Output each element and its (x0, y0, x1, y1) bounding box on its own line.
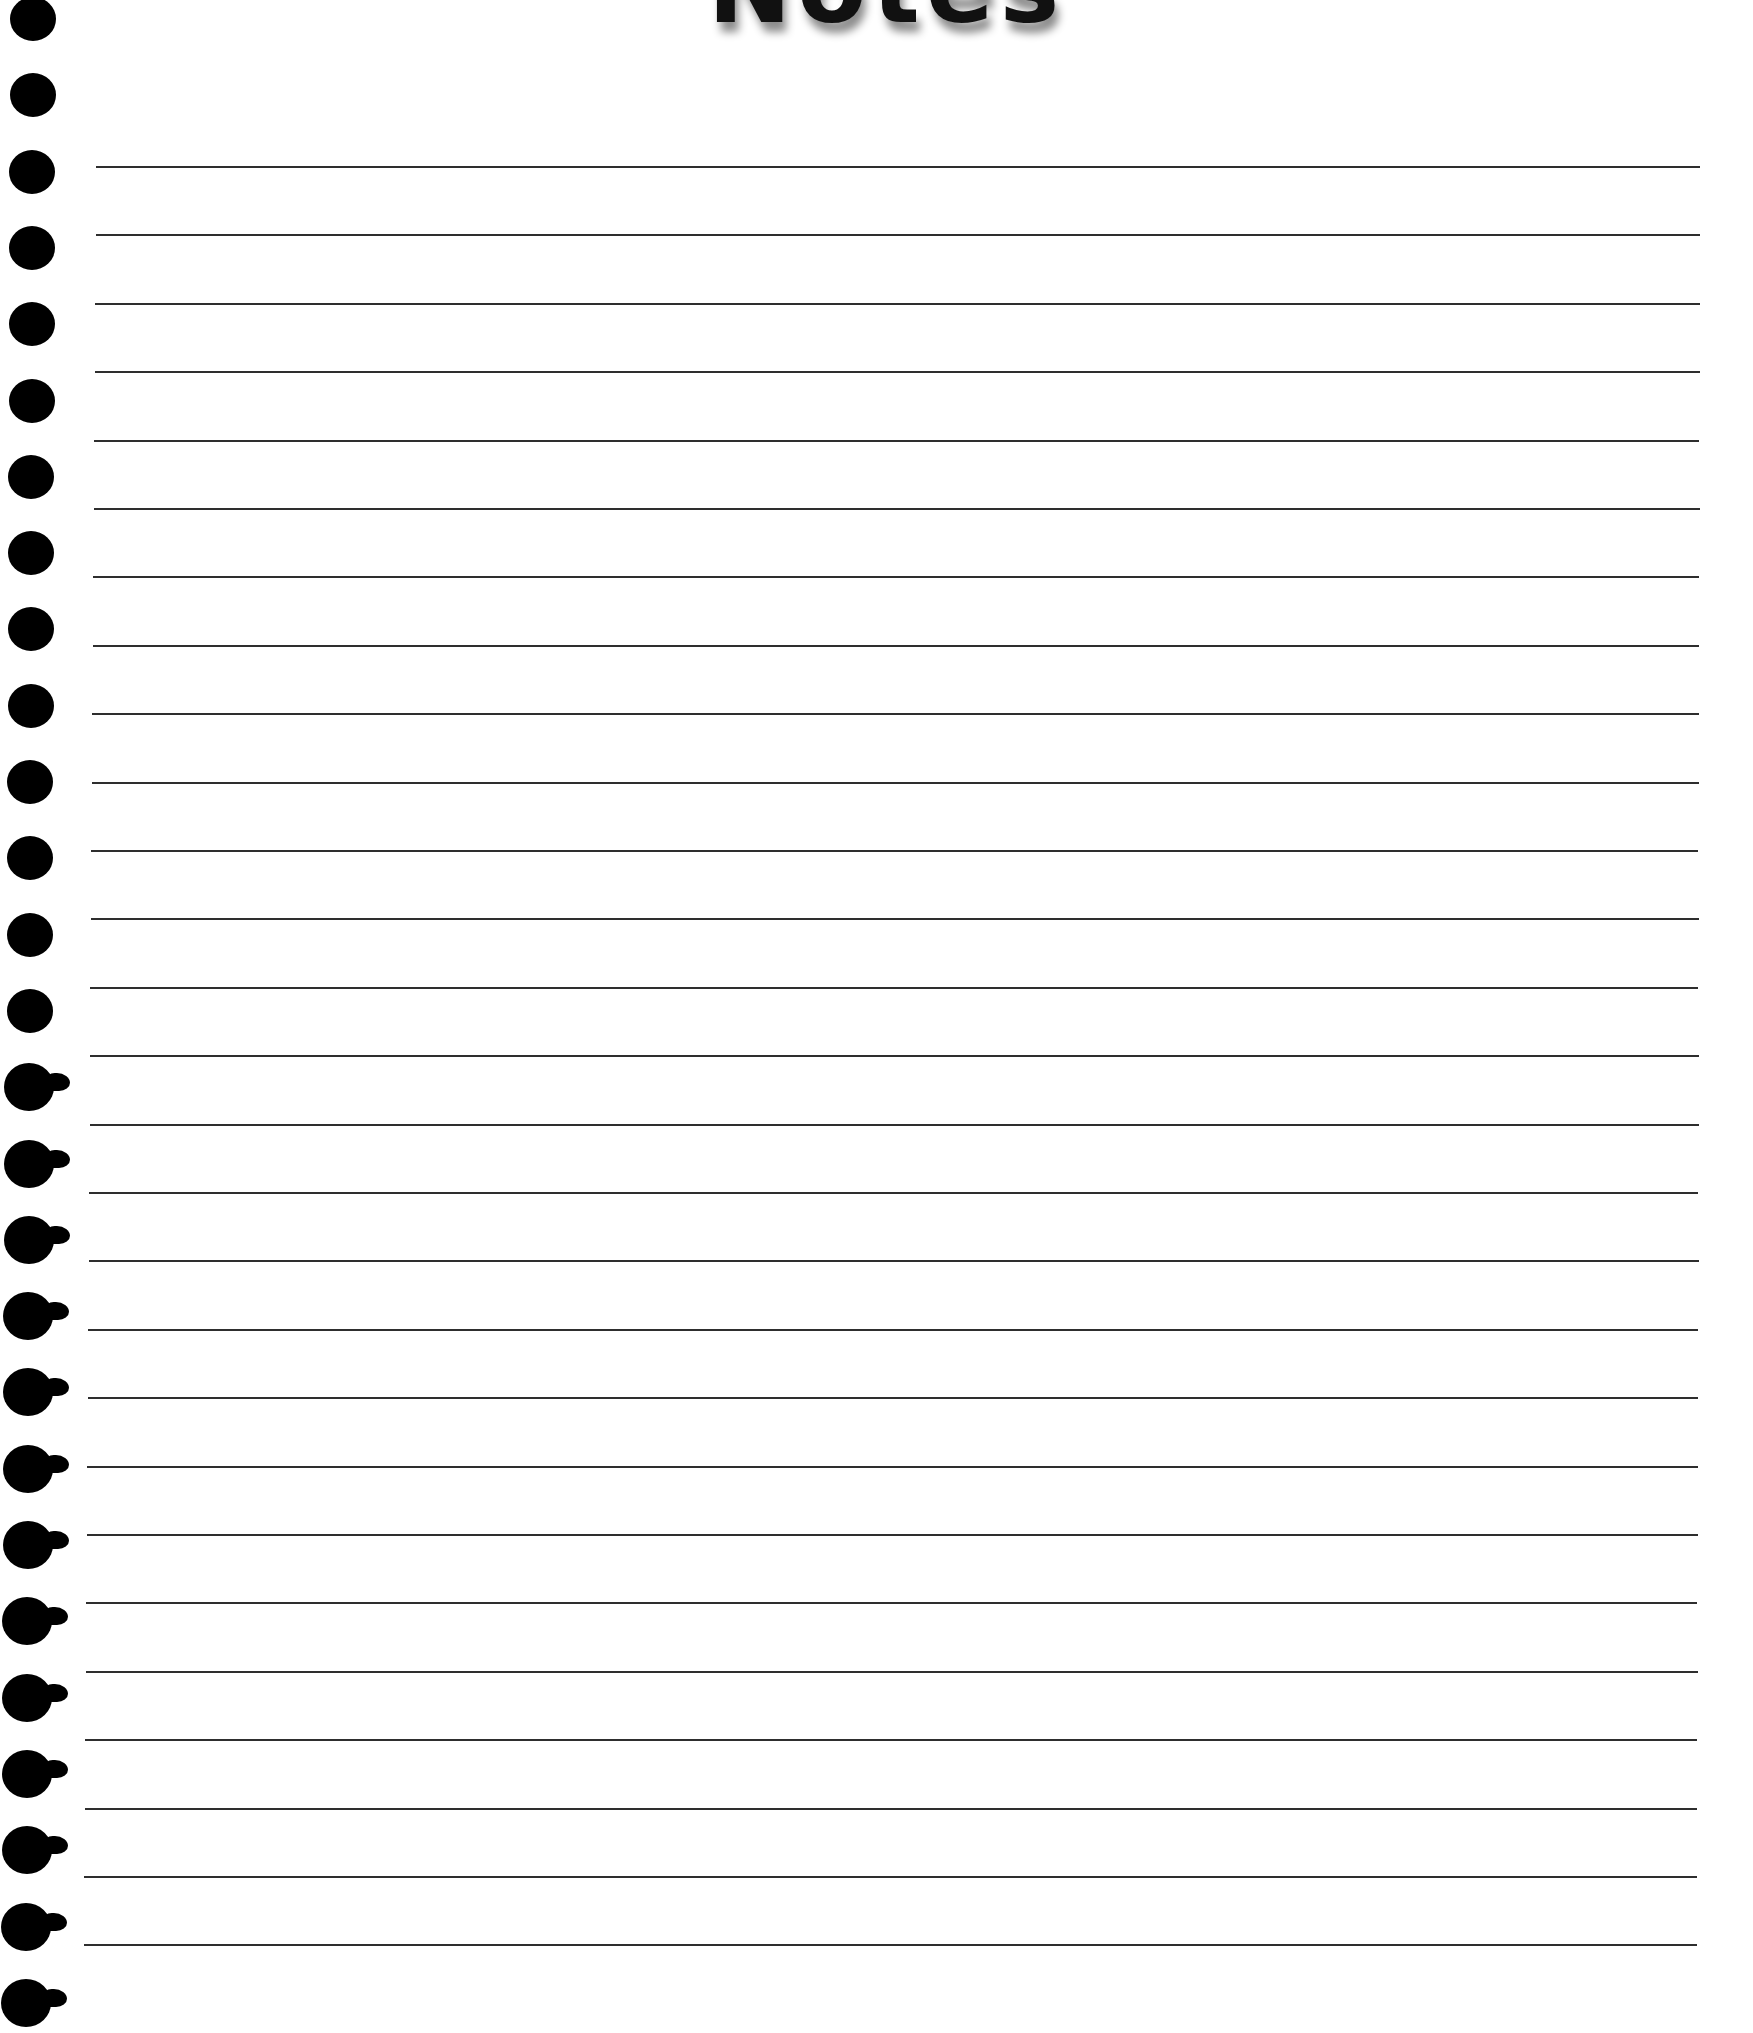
ruled-line (94, 508, 1700, 510)
ruled-line (92, 782, 1699, 784)
notebook-sheet: Notes (0, 0, 1753, 2033)
ruled-lines-area[interactable] (0, 0, 1753, 2033)
ruled-line (90, 1124, 1699, 1126)
ruled-line (84, 1876, 1697, 1878)
ruled-line (95, 371, 1700, 373)
ruled-line (90, 987, 1698, 989)
ruled-line (86, 1602, 1697, 1604)
ruled-line (88, 1397, 1698, 1399)
ruled-line (89, 1192, 1698, 1194)
ruled-line (93, 645, 1699, 647)
ruled-line (96, 166, 1700, 168)
ruled-line (94, 440, 1699, 442)
ruled-line (90, 1055, 1699, 1057)
ruled-line (91, 850, 1698, 852)
ruled-line (88, 1329, 1698, 1331)
ruled-line (85, 1808, 1697, 1810)
ruled-line (95, 303, 1700, 305)
ruled-line (93, 576, 1699, 578)
ruled-line (84, 1944, 1697, 1946)
ruled-line (92, 713, 1699, 715)
ruled-line (89, 1260, 1699, 1262)
ruled-line (85, 1739, 1697, 1741)
ruled-line (91, 918, 1699, 920)
ruled-line (96, 234, 1700, 236)
ruled-line (87, 1534, 1698, 1536)
ruled-line (87, 1466, 1698, 1468)
ruled-line (86, 1671, 1698, 1673)
